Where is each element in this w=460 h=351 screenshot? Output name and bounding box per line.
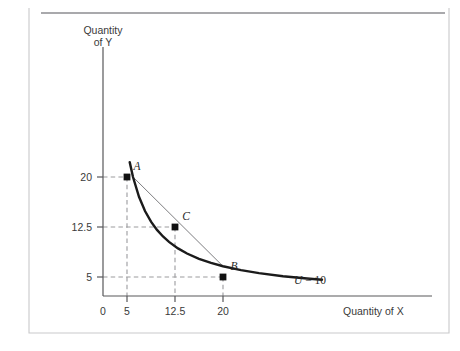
y-axis-title-line2: of Y [94, 36, 113, 48]
y-tick-label-5: 5 [86, 271, 92, 283]
x-tick-label-20: 20 [217, 305, 229, 317]
point-marker-c [172, 224, 179, 231]
curve-utility-value: = 10 [302, 274, 326, 286]
x-axis-ticks [127, 296, 223, 302]
point-marker-a [124, 174, 131, 181]
x-tick-label-12-5: 12.5 [165, 305, 186, 317]
chord-line-ab [133, 177, 223, 266]
y-axis-title-line1: Quantity [83, 24, 123, 36]
figure-container: 20 12.5 5 0 5 12.5 20 Quantity of Y Quan… [0, 0, 460, 351]
point-marker-b [220, 274, 227, 281]
x-tick-label-0: 0 [100, 305, 106, 317]
point-label-c: C [182, 210, 190, 222]
point-label-b: B [230, 260, 237, 272]
indifference-curve-chart: 20 12.5 5 0 5 12.5 20 Quantity of Y Quan… [0, 0, 460, 351]
indifference-curve-u10 [130, 162, 322, 280]
y-axis-ticks [97, 177, 103, 277]
y-tick-label-12-5: 12.5 [72, 221, 93, 233]
x-tick-label-5: 5 [124, 305, 130, 317]
x-axis-title: Quantity of X [343, 305, 404, 317]
curve-utility-label: U = 10 [294, 274, 326, 286]
point-label-a: A [132, 160, 141, 172]
y-tick-label-20: 20 [80, 171, 92, 183]
page-frame-border [29, 8, 449, 333]
